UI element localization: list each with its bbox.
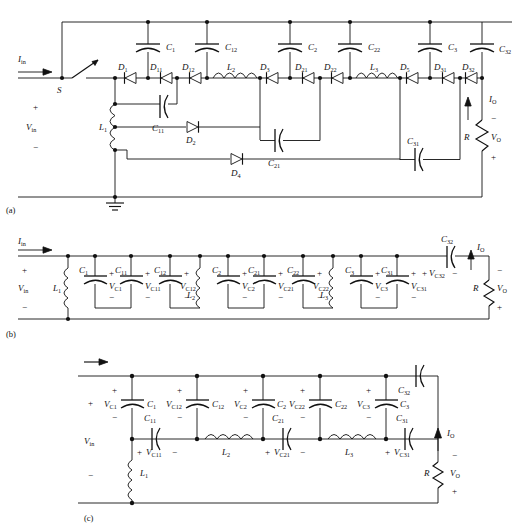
junction-dot — [318, 437, 322, 441]
diode-d3-body — [267, 73, 278, 84]
cap-c21-plate-right — [279, 129, 283, 152]
junction-dot — [384, 437, 388, 441]
cap-c32-plate-bottom — [470, 48, 494, 52]
resistor-r-zigzag — [476, 120, 488, 151]
panel-a-schematic: Iin S + Vin − C1 C12 C2 C22 C3 C32 D1 D1… — [0, 0, 527, 215]
panel-b-label-io: IO — [476, 242, 485, 253]
junction-dot — [195, 437, 199, 441]
panel-c-c21-minus: − — [300, 447, 305, 457]
label-r: R — [463, 132, 470, 142]
junction-dot — [93, 254, 97, 258]
panel-b-c2-minus: − — [242, 292, 247, 302]
cap-c3-plate-bottom — [418, 48, 442, 52]
label-d32: D32 — [461, 62, 475, 73]
panel-c-c22-minus: − — [300, 412, 305, 422]
panel-c-label-vc2: VC2 — [234, 399, 247, 410]
panel-c-vin-plus: + — [88, 398, 93, 408]
panel-c-c2-minus: − — [243, 412, 248, 422]
panel-b-label-vin: Vin — [18, 283, 28, 294]
junction-dot — [262, 254, 266, 258]
panel-c-c2-plus: + — [243, 385, 248, 395]
panel-b-c1-minus: − — [109, 292, 114, 302]
panel-c-label-r: R — [423, 468, 430, 478]
panel-c-label-vc3: VC3 — [357, 399, 370, 410]
label-c1: C1 — [166, 42, 175, 53]
panel-b-c11-plate-bottom — [120, 280, 143, 284]
panel-c-c22-plus: + — [300, 385, 305, 395]
panel-c-c3-plate-bottom — [375, 404, 398, 408]
panel-b-label-r: R — [472, 283, 479, 293]
label-vin: Vin — [26, 122, 36, 133]
diode-d32-body — [466, 73, 477, 84]
panel-b-label-vc32: VC32 — [429, 268, 445, 279]
panel-b-label-c12: C12 — [154, 265, 166, 276]
panel-b-c22-plate-bottom — [292, 280, 315, 284]
panel-b-c3-plus: + — [375, 268, 380, 278]
panel-c-c3-minus: − — [366, 412, 371, 422]
label-vo: VO — [491, 132, 502, 143]
diode-d22-body — [332, 73, 343, 84]
panel-b-c1-plus: + — [109, 268, 114, 278]
panel-b-l2-coil — [196, 268, 200, 308]
panel-b-c3-minus: − — [375, 292, 380, 302]
label-d21: D21 — [294, 62, 308, 73]
panel-b-label-c3: C3 — [345, 265, 354, 276]
panel-c-c22-plate-bottom — [309, 404, 332, 408]
junction-dot — [331, 254, 335, 258]
panel-b-iin-arrowhead — [43, 247, 52, 253]
panel-b-vin-plus: + — [22, 265, 27, 275]
label-d22: D22 — [323, 62, 337, 73]
panel-c-label-c2: C2 — [277, 399, 286, 410]
panel-a-caption: (a) — [6, 205, 16, 215]
junction-dot — [301, 254, 305, 258]
panel-c-l3-coil — [328, 435, 376, 440]
cap-c31-plate-right — [419, 148, 423, 171]
panel-b-vo-plus: + — [497, 302, 502, 312]
panel-b-schematic: Iin + Vin − L1 C1 + VC1 − C11 + VC11 − C… — [0, 228, 527, 348]
panel-b-c11-minus: − — [145, 292, 150, 302]
junction-dot — [348, 20, 352, 24]
panel-a-switch-arrow — [92, 60, 98, 66]
label-l3: L3 — [369, 62, 378, 73]
inductor-l2-coil — [213, 73, 257, 78]
label-vin-minus: − — [33, 142, 38, 152]
panel-c-label-c21: C21 — [272, 413, 284, 424]
diode-d4-lead-left — [115, 150, 230, 159]
panel-c-label-c22: C22 — [335, 399, 347, 410]
panel-c-iin-arrowhead — [99, 359, 108, 365]
junction-dot — [261, 374, 265, 378]
cap-c21-wire-out — [283, 78, 320, 141]
label-vo-plus: + — [491, 152, 496, 162]
label-l1: L1 — [98, 122, 107, 133]
panel-b-c2-plate-bottom — [217, 280, 240, 284]
diode-d31-body — [443, 73, 454, 84]
panel-b-c21-minus: − — [278, 292, 283, 302]
label-c11: C11 — [152, 123, 164, 134]
panel-c-vo-plus: + — [452, 486, 457, 496]
panel-b-io-arrowhead — [468, 250, 474, 259]
panel-b-vo-minus: − — [497, 265, 502, 275]
junction-dot — [395, 254, 399, 258]
label-d31: D31 — [433, 62, 447, 73]
panel-c-resistor-r — [433, 462, 443, 488]
panel-b-c32-plate-right — [451, 246, 455, 268]
junction-dot — [130, 501, 134, 505]
panel-c-label-vc1: VC1 — [104, 399, 117, 410]
junction-dot — [66, 317, 70, 321]
panel-b-c32-minus: − — [452, 268, 457, 278]
cap-c31-wire-out — [423, 78, 460, 160]
panel-b-label-c1: C1 — [79, 265, 88, 276]
junction-dot — [288, 76, 292, 80]
panel-b-label-c2: C2 — [212, 265, 221, 276]
panel-c-c31-plus: + — [385, 447, 390, 457]
junction-dot — [261, 437, 265, 441]
junction-dot — [205, 20, 209, 24]
panel-c-label-c32: C32 — [398, 385, 410, 396]
diode-d2-body — [187, 122, 198, 133]
panel-b-c32-plus: + — [422, 268, 427, 278]
diode-d5-body — [407, 73, 418, 84]
panel-c-c12-plate-bottom — [186, 404, 209, 408]
diode-d1-body — [125, 73, 136, 84]
label-d11: D11 — [149, 62, 162, 73]
panel-c-label-l1: L1 — [139, 468, 148, 479]
